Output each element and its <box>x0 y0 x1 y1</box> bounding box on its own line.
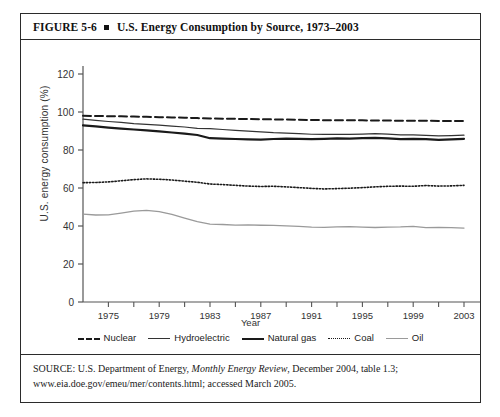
y-tick-label: 80 <box>63 145 75 156</box>
legend-label: Oil <box>412 332 424 343</box>
y-tick-label: 20 <box>63 259 75 270</box>
legend-item-nuclear[interactable]: Nuclear <box>78 332 137 343</box>
source-line1-prefix: SOURCE: U.S. Department of Energy, <box>33 363 192 374</box>
legend-swatch-icon <box>328 334 350 342</box>
legend-label: Natural gas <box>268 332 317 343</box>
chart-legend: NuclearHydroelectricNatural gasCoalOil <box>21 332 480 343</box>
legend-item-oil[interactable]: Oil <box>386 332 424 343</box>
data-series-group <box>83 116 464 228</box>
y-tick-label: 120 <box>57 69 74 80</box>
legend-swatch-icon <box>242 334 264 342</box>
y-tick-label: 60 <box>63 183 75 194</box>
figure-container: FIGURE 5-6 U.S. Energy Consumption by So… <box>20 13 481 403</box>
y-tick-label: 40 <box>63 221 75 232</box>
legend-label: Nuclear <box>104 332 137 343</box>
source-note: SOURCE: U.S. Department of Energy, Month… <box>21 354 480 391</box>
series-line-nuclear <box>83 116 464 121</box>
y-tick-label: 100 <box>57 107 74 118</box>
figure-header: FIGURE 5-6 U.S. Energy Consumption by So… <box>21 14 480 40</box>
series-line-coal <box>83 179 464 189</box>
legend-swatch-icon <box>386 334 408 342</box>
y-axis-ticks: 020406080100120 <box>57 69 83 308</box>
figure-title: U.S. Energy Consumption by Source, 1973–… <box>117 21 359 33</box>
plot-region: U.S. energy consumption (%) 020406080100… <box>21 40 480 340</box>
legend-swatch-icon <box>78 334 100 342</box>
source-line1-suffix: , December 2004, table 1.3; <box>287 363 398 374</box>
series-line-oil <box>83 210 464 228</box>
legend-item-coal[interactable]: Coal <box>328 332 374 343</box>
figure-number: FIGURE 5-6 <box>33 21 97 33</box>
square-bullet-icon <box>104 25 109 30</box>
legend-item-natural-gas[interactable]: Natural gas <box>242 332 317 343</box>
legend-item-hydroelectric[interactable]: Hydroelectric <box>148 332 229 343</box>
figure-caption: FIGURE 5-6 U.S. Energy Consumption by So… <box>21 21 359 33</box>
y-tick-label: 0 <box>68 297 74 308</box>
source-line2: www.eia.doe.gov/emeu/mer/contents.html; … <box>33 378 296 389</box>
source-publication-title: Monthly Energy Review <box>192 363 288 374</box>
legend-label: Hydroelectric <box>174 332 229 343</box>
line-chart: 020406080100120 197519791983198719911995… <box>21 40 482 340</box>
legend-label: Coal <box>354 332 374 343</box>
legend-swatch-icon <box>148 334 170 342</box>
x-axis-label: Year <box>21 317 480 328</box>
